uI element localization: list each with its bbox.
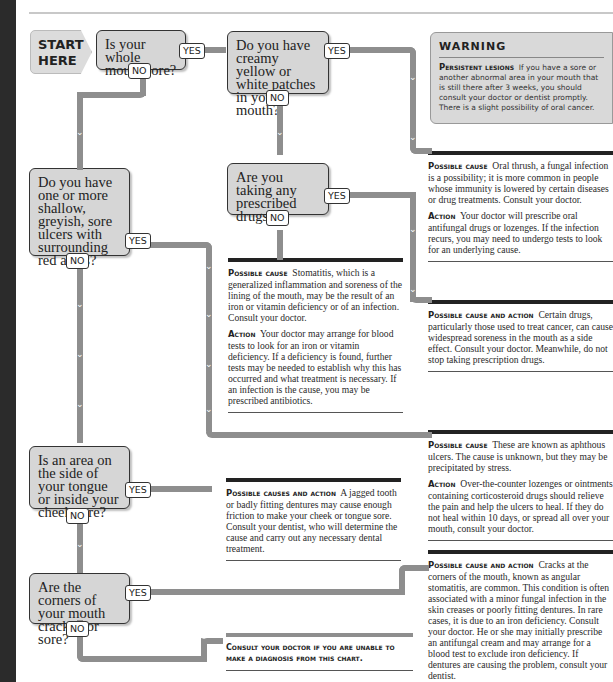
question-prescribed-drugs: Are you taking any prescribed drugs? (227, 163, 329, 215)
section-bar (226, 633, 413, 637)
section-rule (428, 261, 613, 262)
q4-no-label: NO (66, 253, 89, 269)
question-tongue-cheek-sore: Is an area on the side of your tongue or… (29, 446, 130, 509)
warning-box: WARNING Persistent lesions If you have a… (430, 32, 613, 124)
answer-dental: Possible causes and action A jagged toot… (226, 478, 401, 561)
section-bar (428, 430, 613, 434)
connector-q3-yes (350, 192, 416, 198)
chevron-icon: ⌄ (276, 128, 284, 137)
connector-q6-yes-h2 (399, 565, 429, 571)
q4-yes-label: YES (125, 233, 151, 249)
answer-oral-thrush: Possible cause Oral thrush, a fungal inf… (428, 151, 613, 262)
connector-q1-no-h (77, 92, 146, 98)
q3-yes-label: YES (324, 188, 350, 204)
connector-q4-yes-h2 (206, 432, 432, 438)
connector-q2-yes (350, 47, 416, 53)
chevron-icon: ⌄ (76, 300, 84, 309)
chevron-icon: ⌄ (205, 405, 213, 414)
section-rule (226, 670, 413, 671)
connector-q6-no-h (77, 656, 207, 662)
connector-q3-no (277, 230, 283, 260)
start-line-2: HERE (38, 53, 91, 69)
section-rule (428, 371, 613, 372)
section-bar (428, 300, 613, 304)
q1-no-label: NO (128, 63, 151, 79)
warning-label: Persistent lesions (439, 62, 514, 72)
q1-yes-label: YES (179, 43, 205, 59)
q3-no-label: NO (266, 210, 289, 226)
chevron-icon: ⌄ (409, 73, 417, 82)
connector-q6-no-h2 (201, 638, 223, 644)
answer-prescribed-drugs: Possible cause and action Certain drugs,… (428, 300, 613, 372)
section-bar (428, 550, 613, 554)
answer-angular-stomatitis: Possible cause and action Cracks at the … (428, 550, 613, 682)
section-bar (428, 151, 613, 155)
connector-q4-yes (150, 242, 212, 248)
start-here-marker: START HERE (30, 30, 92, 74)
connector-q6-yes (150, 589, 405, 595)
answer-stomatitis: Possible cause Stomatitis, which is a ge… (228, 258, 403, 413)
q2-yes-label: YES (324, 43, 350, 59)
chevron-icon: ⌄ (76, 128, 84, 137)
section-rule (228, 412, 403, 413)
chevron-icon: ⌄ (409, 285, 417, 294)
section-bar (226, 478, 401, 482)
start-line-1: START (38, 37, 91, 53)
chevron-icon: ⌄ (76, 400, 84, 409)
chevron-icon: ⌄ (76, 350, 84, 359)
chevron-icon: ⌄ (205, 262, 213, 271)
chevron-icon: ⌄ (205, 360, 213, 369)
chevron-icon: ⌄ (409, 133, 417, 142)
section-rule (428, 540, 613, 541)
q2-no-label: NO (266, 90, 289, 106)
answer-consult-doctor: Consult your doctor if you are unable to… (226, 633, 413, 671)
question-shallow-ulcers: Do you have one or more shallow, greyish… (29, 168, 130, 256)
question-mouth-corners: Are the corners of your mouth cracked or… (29, 573, 130, 624)
connector-q2-yes-h2 (410, 148, 432, 154)
question-creamy-patches: Do you have creamy yellow or white patch… (227, 31, 329, 94)
chevron-icon: ⌄ (409, 225, 417, 234)
q6-no-label: NO (66, 621, 89, 637)
page-edge-band (0, 0, 16, 682)
q5-yes-label: YES (125, 482, 151, 498)
section-bar (228, 258, 403, 262)
connector-q3-yes-h2 (410, 297, 432, 303)
q6-yes-label: YES (125, 585, 151, 601)
q5-no-label: NO (66, 508, 89, 524)
chevron-icon: ⌄ (76, 540, 84, 549)
answer-aphthous-ulcers: Possible cause These are known as aphtho… (428, 430, 613, 541)
connector-q5-yes (150, 486, 212, 492)
warning-body: Persistent lesions If you have a sore or… (439, 62, 604, 113)
chevron-icon: ⌄ (205, 310, 213, 319)
section-rule (226, 560, 401, 561)
top-rule (29, 12, 613, 14)
warning-title: WARNING (439, 40, 604, 58)
